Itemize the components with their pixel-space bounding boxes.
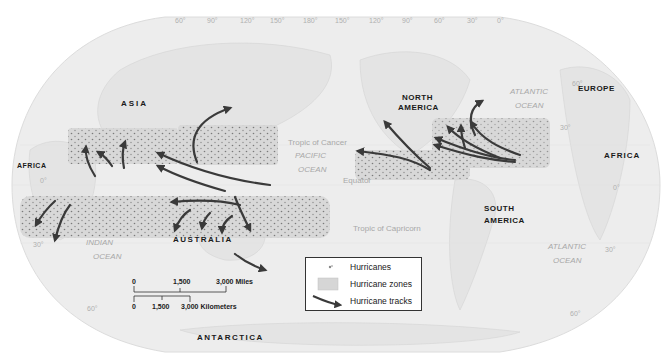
label-antarctica: ANTARCTICA (197, 334, 264, 342)
map-legend: Hurricanes Hurricane zones Hurricane tra… (305, 257, 422, 311)
lon-label: 60° (434, 17, 445, 24)
label-pacific-line1: PACIFIC (295, 152, 326, 160)
lat-label-ne-30: 30° (560, 124, 571, 131)
legend-label: Hurricane zones (350, 279, 412, 289)
lon-label: 90° (402, 17, 413, 24)
lon-label: 30° (467, 17, 478, 24)
scale-miles-end: 3,000 Miles (216, 278, 253, 285)
scale-bar: 0 1,500 3,000 Miles 0 1,500 3,000 Kilome… (128, 278, 268, 318)
lon-label: 180° (303, 17, 317, 24)
label-indian-line1: INDIAN (86, 239, 113, 247)
legend-label: Hurricane tracks (350, 296, 412, 306)
lat-label-sw-60: 60° (87, 305, 98, 312)
scale-miles-zero: 0 (132, 278, 136, 285)
label-atlantic-north-line2: OCEAN (515, 102, 543, 110)
lon-label: 0° (497, 17, 504, 24)
zone-swatch-icon (312, 277, 342, 291)
label-atlantic-south-line1: ATLANTIC (548, 243, 586, 251)
label-atlantic-south-line2: OCEAN (553, 257, 581, 265)
lon-label: 120° (369, 17, 383, 24)
lon-label: 150° (335, 17, 349, 24)
scale-miles-mid: 1,500 (173, 278, 191, 285)
label-tropic-of-capricorn: Tropic of Capricorn (353, 225, 421, 233)
dot-icon (312, 260, 342, 274)
lat-label-se-60: 60° (570, 310, 581, 317)
label-north-america-line1: NORTH (402, 94, 433, 102)
scale-km-mid: 1,500 (152, 303, 170, 310)
lat-label-e-0: 0° (613, 184, 620, 191)
label-atlantic-north-line1: ATLANTIC (510, 88, 548, 96)
label-africa-west: AFRICA (17, 162, 46, 169)
lon-label: 60° (175, 17, 186, 24)
legend-item-zones: Hurricane zones (312, 277, 342, 291)
arrow-icon (312, 294, 346, 308)
legend-item-tracks: Hurricane tracks (312, 294, 346, 308)
scale-km-end: 3,000 Kilometers (181, 303, 237, 310)
label-tropic-of-cancer: Tropic of Cancer (288, 139, 347, 147)
lon-label: 90° (207, 17, 218, 24)
legend-label: Hurricanes (350, 262, 391, 272)
lon-label: 150° (270, 17, 284, 24)
label-africa-east: AFRICA (604, 152, 640, 160)
label-asia: ASIA (121, 100, 148, 108)
label-equator: Equator (343, 177, 371, 185)
scale-km-zero: 0 (132, 303, 136, 310)
lat-label-sw-30: 30° (33, 241, 44, 248)
label-pacific-line2: OCEAN (298, 166, 326, 174)
lon-label: 120° (240, 17, 254, 24)
lat-label-w-0: 0° (40, 177, 47, 184)
label-south-america-line1: SOUTH (484, 205, 515, 213)
label-indian-line2: OCEAN (93, 253, 121, 261)
label-australia: AUSTRALIA (173, 236, 233, 244)
legend-item-hurricanes: Hurricanes (312, 260, 342, 274)
label-north-america-line2: AMERICA (398, 104, 439, 112)
lat-label-se-30: 30° (605, 246, 616, 253)
label-europe: EUROPE (578, 85, 615, 93)
label-south-america-line2: AMERICA (484, 217, 525, 225)
scale-bar-lines (128, 286, 268, 302)
